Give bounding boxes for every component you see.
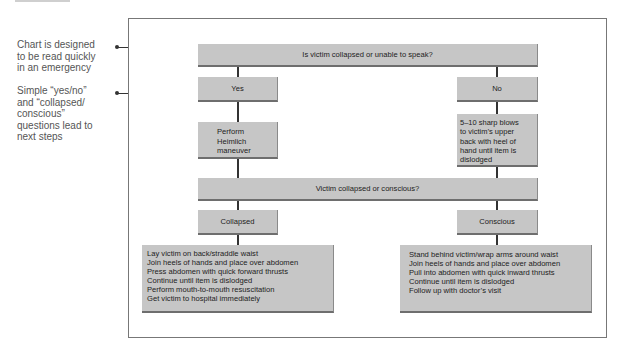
annotation-emergency: Chart is designed to be read quickly in … <box>17 39 95 74</box>
step-line: Continue until item is dislodged <box>147 276 333 285</box>
annotation-line: questions lead to <box>17 120 93 132</box>
action-line: Perform <box>217 127 277 137</box>
action-heimlich: Perform Heimlich maneuver <box>198 122 278 159</box>
step-line: Stand behind victim/wrap arms around wai… <box>409 250 591 259</box>
answer-text: Yes <box>231 84 243 93</box>
step-line: Get victim to hospital immediately <box>147 294 333 303</box>
connector-line <box>496 101 498 115</box>
action-line: 5–10 sharp blows <box>460 118 537 127</box>
step-line: Perform mouth-to-mouth resuscitation <box>147 285 333 294</box>
answer-conscious: Conscious <box>457 210 538 235</box>
answer-yes: Yes <box>198 77 278 102</box>
action-line: back with heel of <box>460 137 537 146</box>
action-line: maneuver <box>217 146 277 156</box>
step-line: Pull into abdomen with quick inward thru… <box>409 268 591 277</box>
action-back-blows: 5–10 sharp blows to victim’s upper back … <box>457 114 538 167</box>
step-line: Join heels of hands and place over abdom… <box>409 259 591 268</box>
steps-collapsed: Lay victim on back/straddle waist Join h… <box>142 245 334 313</box>
annotation-line: and “collapsed/ <box>17 97 93 109</box>
action-line: dislodged <box>460 155 537 164</box>
answer-text: Conscious <box>479 217 514 226</box>
top-rule <box>15 0 70 2</box>
step-line: Lay victim on back/straddle waist <box>147 249 333 258</box>
annotation-line: conscious” <box>17 108 93 120</box>
action-line: to victim’s upper <box>460 127 537 136</box>
action-line: Heimlich <box>217 137 277 147</box>
question-text: Victim collapsed or conscious? <box>316 184 420 193</box>
question-collapsed-or-conscious: Victim collapsed or conscious? <box>198 178 538 201</box>
answer-collapsed: Collapsed <box>198 210 278 235</box>
action-line: hand until item is <box>460 146 537 155</box>
connector-line <box>237 101 239 123</box>
annotation-line: in an emergency <box>17 62 95 74</box>
question-text: Is victim collapsed or unable to speak? <box>302 50 432 59</box>
annotation-line: Chart is designed <box>17 39 95 51</box>
annotation-line: to be read quickly <box>17 51 95 63</box>
step-line: Follow up with doctor’s visit <box>409 286 591 295</box>
answer-text: Collapsed <box>221 217 255 226</box>
steps-conscious: Stand behind victim/wrap arms around wai… <box>400 245 592 313</box>
step-line: Press abdomen with quick forward thrusts <box>147 267 333 276</box>
step-line: Continue until item is dislodged <box>409 277 591 286</box>
annotation-line: Simple “yes/no” <box>17 85 93 97</box>
answer-text: No <box>492 84 502 93</box>
answer-no: No <box>457 77 538 102</box>
annotation-yes-no: Simple “yes/no” and “collapsed/ consciou… <box>17 85 93 143</box>
connector-line <box>237 158 239 179</box>
question-collapsed-or-unable-to-speak: Is victim collapsed or unable to speak? <box>198 44 538 67</box>
step-line: Join heels of hands and place over abdom… <box>147 258 333 267</box>
annotation-line: next steps <box>17 131 93 143</box>
